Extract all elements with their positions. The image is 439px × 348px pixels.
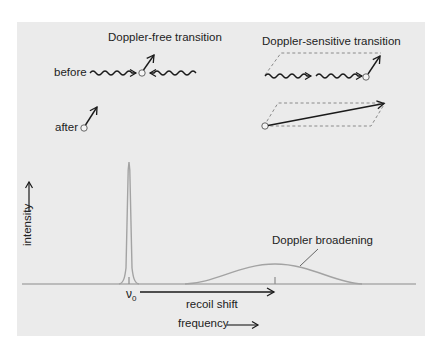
intensity-axis-label: intensity — [22, 204, 34, 246]
frequency-axis-label: frequency — [178, 318, 229, 330]
doppler-free-title: Doppler-free transition — [108, 32, 222, 44]
dashed-parallelogram-upper — [265, 53, 381, 75]
atom-velocity-arrow-icon — [144, 55, 155, 70]
atom-sensitive-after-icon — [262, 123, 268, 129]
recoil-shift-label: recoil shift — [186, 299, 238, 311]
atom-sensitive-velocity-arrow-icon — [368, 56, 380, 74]
atom-after-icon — [81, 125, 87, 131]
before-label: before — [54, 67, 87, 79]
nu0-subscript: 0 — [132, 294, 136, 303]
doppler-free-after-group — [81, 107, 97, 131]
atom-after-velocity-arrow-icon — [86, 107, 98, 125]
broadening-leader-line — [300, 249, 318, 266]
doppler-broadening-label: Doppler broadening — [272, 235, 373, 247]
diagram-canvas — [0, 0, 439, 348]
doppler-free-before-group — [90, 55, 196, 76]
resultant-momentum-arrow-icon — [268, 104, 384, 126]
nu0-label: ν0 — [126, 288, 136, 303]
after-label: after — [55, 122, 78, 134]
atom-before-icon — [139, 70, 145, 76]
doppler-free-peak — [119, 162, 139, 284]
atom-sensitive-before-icon — [363, 74, 369, 80]
doppler-sensitive-before-group — [265, 53, 381, 80]
photon-wave-first-icon — [265, 74, 311, 78]
photon-wave-second-icon — [316, 74, 362, 78]
doppler-sensitive-title: Doppler-sensitive transition — [262, 36, 401, 48]
doppler-sensitive-after-group — [262, 103, 385, 129]
photon-wave-right-icon — [150, 71, 196, 75]
photon-wave-left-icon — [90, 71, 136, 75]
doppler-broadened-peak — [185, 264, 362, 284]
